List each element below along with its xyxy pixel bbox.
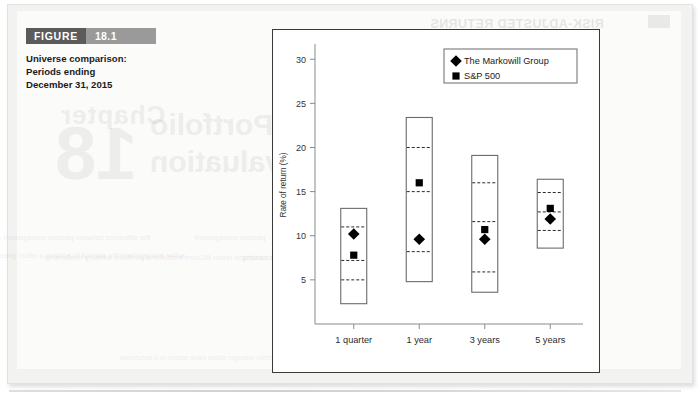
figure-number: 18.1 — [86, 28, 156, 44]
box-2 — [406, 117, 432, 281]
sp500-marker-2 — [416, 179, 423, 186]
sp500-marker-1 — [350, 252, 357, 259]
box-plot-chart: 51015202530Rate of return (%)1 quarter1 … — [273, 30, 599, 372]
x-tick-label-4: 5 years — [535, 335, 566, 345]
legend-marker-square — [452, 72, 459, 79]
sp500-marker-4 — [547, 205, 554, 212]
y-axis-title: Rate of return (%) — [279, 152, 288, 217]
x-tick-label-2: 1 year — [406, 335, 432, 345]
figure-label: FIGURE — [26, 28, 86, 44]
chart-panel: 51015202530Rate of return (%)1 quarter1 … — [272, 29, 600, 373]
y-tick-label: 5 — [301, 275, 306, 285]
legend-label-2: S&P 500 — [464, 71, 500, 81]
figure-caption-text: Universe comparison: Periods ending Dece… — [26, 52, 144, 92]
y-tick-label: 15 — [296, 187, 306, 197]
y-tick-label: 10 — [296, 231, 306, 241]
figure-header-bar: FIGURE 18.1 — [26, 28, 156, 44]
screenshot-root: RISK-ADJUSTED RETURNS Evaluation Criteri… — [0, 0, 699, 414]
y-tick-label: 30 — [296, 55, 306, 65]
y-tick-label: 20 — [296, 143, 306, 153]
page-bottom-rule — [9, 390, 681, 392]
x-tick-label-3: 3 years — [470, 335, 501, 345]
y-tick-label: 25 — [296, 99, 306, 109]
bleedthrough-header-chip — [648, 15, 670, 28]
sp500-marker-3 — [481, 226, 488, 233]
x-tick-label-1: 1 quarter — [335, 335, 372, 345]
figure-caption-block: FIGURE 18.1 Universe comparison: Periods… — [26, 28, 166, 92]
legend-label-1: The Markowill Group — [464, 56, 549, 66]
